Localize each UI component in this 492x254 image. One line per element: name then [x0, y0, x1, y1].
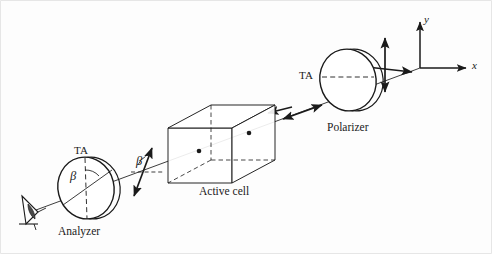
polarizer-ta-label: TA	[299, 70, 313, 81]
analyzer-element	[51, 151, 126, 225]
optics-diagram-figure: x y TA Polarizer Active cell β TA β Anal…	[0, 0, 492, 254]
observer-eye-icon	[19, 196, 46, 230]
active-cell-label: Active cell	[199, 186, 249, 198]
y-axis-label: y	[424, 14, 429, 25]
coordinate-axes	[420, 22, 466, 68]
x-axis-label: x	[472, 60, 477, 71]
cell-marker-dot	[197, 149, 202, 154]
analyzer-ta-label: TA	[74, 145, 88, 156]
polarizer-element	[313, 43, 389, 117]
analyzer-beta-angle-label: β	[70, 170, 76, 183]
active-cell-box	[168, 105, 275, 183]
cell-marker-dot	[247, 131, 252, 136]
polarizer-label: Polarizer	[327, 122, 369, 134]
beam-beta-angle-label: β	[136, 155, 142, 168]
diagram-canvas	[0, 0, 492, 254]
analyzer-label: Analyzer	[58, 226, 100, 238]
